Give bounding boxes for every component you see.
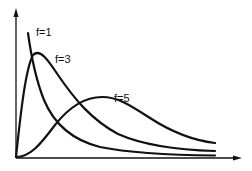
- label-f1: f=1: [36, 26, 52, 38]
- label-f3: f=3: [55, 53, 71, 65]
- label-f5: f=5: [114, 92, 130, 104]
- y-axis-arrow-icon: [14, 8, 19, 17]
- x-axis-arrow-icon: [233, 156, 242, 161]
